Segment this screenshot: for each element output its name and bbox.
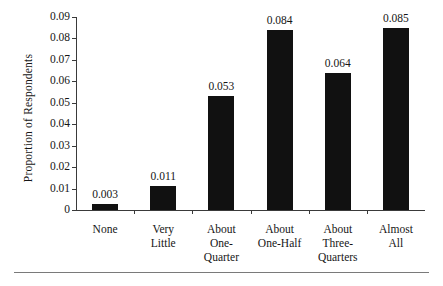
bar-value-label: 0.085 xyxy=(366,13,426,25)
x-category-label: AlmostAll xyxy=(356,222,436,250)
x-tick-mark xyxy=(251,210,252,214)
x-tick-mark xyxy=(134,210,135,214)
bar-value-label: 0.003 xyxy=(75,189,135,201)
bar xyxy=(150,186,176,210)
y-tick-mark xyxy=(72,17,76,18)
y-tick-mark xyxy=(72,103,76,104)
bar-value-label: 0.053 xyxy=(191,81,251,93)
y-tick-mark xyxy=(72,60,76,61)
bar-chart-figure: Proportion of Respondents 0.090.080.070.… xyxy=(0,0,443,286)
bar-value-label: 0.084 xyxy=(250,15,310,27)
y-tick-label: 0 xyxy=(28,204,70,216)
bar xyxy=(92,204,118,210)
x-tick-mark xyxy=(309,210,310,214)
bar xyxy=(383,28,409,210)
y-tick-label: 0.05 xyxy=(28,97,70,109)
y-tick-mark xyxy=(72,38,76,39)
x-tick-mark xyxy=(192,210,193,214)
y-tick-mark xyxy=(72,167,76,168)
y-tick-label: 0.01 xyxy=(28,183,70,195)
bar xyxy=(325,73,351,210)
y-tick-mark xyxy=(72,124,76,125)
y-tick-label: 0.04 xyxy=(28,118,70,130)
y-tick-label: 0.07 xyxy=(28,54,70,66)
y-tick-label: 0.09 xyxy=(28,11,70,23)
y-tick-label: 0.06 xyxy=(28,76,70,88)
y-axis-line xyxy=(76,17,77,210)
y-tick-label: 0.08 xyxy=(28,33,70,45)
bar xyxy=(267,30,293,210)
y-tick-mark xyxy=(72,81,76,82)
y-tick-label: 0.02 xyxy=(28,161,70,173)
bar-value-label: 0.011 xyxy=(133,171,193,183)
bar xyxy=(208,96,234,210)
bottom-divider xyxy=(14,272,429,273)
bar-value-label: 0.064 xyxy=(308,58,368,70)
y-tick-label: 0.03 xyxy=(28,140,70,152)
x-tick-mark xyxy=(367,210,368,214)
y-tick-mark xyxy=(72,146,76,147)
plot-area: 0.090.080.070.060.050.040.030.020.010 0.… xyxy=(76,17,425,210)
y-tick-mark xyxy=(72,210,76,211)
